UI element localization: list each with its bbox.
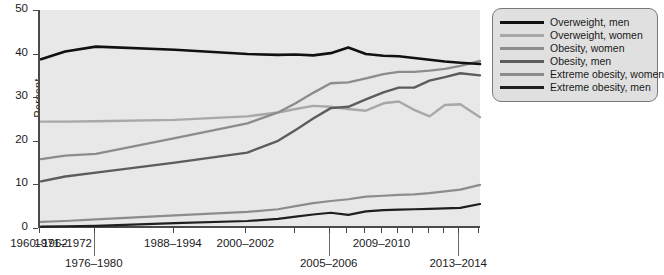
legend-line-swatch xyxy=(500,86,544,88)
x-label-connector xyxy=(458,233,459,256)
x-tick-mark xyxy=(412,228,413,233)
x-tick-mark xyxy=(173,228,174,233)
legend-line-swatch xyxy=(500,60,544,62)
y-tick-label: 50 xyxy=(0,2,28,14)
legend-item[interactable]: Extreme obesity, men xyxy=(500,81,651,94)
legend-item-label: Extreme obesity, women xyxy=(550,68,664,81)
chart-figure: Percent 01020304050 1960–19621971–197219… xyxy=(0,0,664,275)
y-tick-label: 30 xyxy=(0,89,28,101)
x-tick-mark xyxy=(364,228,365,233)
x-tick-mark xyxy=(346,228,347,233)
legend-item-label: Overweight, women xyxy=(550,29,643,42)
y-tick-mark xyxy=(33,228,38,229)
y-tick-label: 0 xyxy=(0,220,28,232)
series-line xyxy=(41,73,480,181)
x-tick-label: 2000–2002 xyxy=(217,237,275,249)
x-tick-mark xyxy=(443,228,444,233)
legend-item-label: Obesity, men xyxy=(550,55,611,68)
legend-item-label: Extreme obesity, men xyxy=(550,81,651,94)
legend-item-label: Overweight, men xyxy=(550,16,629,29)
series-line xyxy=(41,185,480,222)
x-tick-mark xyxy=(39,228,40,233)
legend-line-swatch xyxy=(500,21,544,24)
x-tick-mark xyxy=(397,228,398,233)
legend-item[interactable]: Obesity, women xyxy=(500,42,651,55)
legend-item-label: Obesity, women xyxy=(550,42,625,55)
x-tick-mark xyxy=(294,228,295,233)
y-tick-label: 40 xyxy=(0,46,28,58)
x-tick-mark xyxy=(478,228,479,233)
y-tick-label: 20 xyxy=(0,133,28,145)
x-tick-mark xyxy=(381,228,382,233)
x-tick-mark xyxy=(245,228,246,233)
x-tick-label: 1971–1972 xyxy=(34,237,92,249)
legend-item[interactable]: Extreme obesity, women xyxy=(500,68,651,81)
series-lines xyxy=(40,10,482,228)
x-label-connector xyxy=(329,233,330,256)
legend-line-swatch xyxy=(500,73,544,75)
legend-item[interactable]: Overweight, women xyxy=(500,29,651,42)
y-tick-label: 10 xyxy=(0,176,28,188)
legend-line-swatch xyxy=(500,47,544,49)
legend-item[interactable]: Overweight, men xyxy=(500,16,651,29)
x-tick-mark xyxy=(428,228,429,233)
x-tick-label: 2013–2014 xyxy=(429,257,487,269)
x-tick-label: 1988–1994 xyxy=(144,237,202,249)
legend-line-swatch xyxy=(500,34,544,36)
series-line xyxy=(41,47,480,64)
plot-area xyxy=(38,10,480,228)
x-label-connector xyxy=(94,233,95,256)
x-tick-label: 2005–2006 xyxy=(300,257,358,269)
legend-item[interactable]: Obesity, men xyxy=(500,55,651,68)
series-line xyxy=(41,204,480,227)
x-tick-label: 2009–2010 xyxy=(353,237,411,249)
x-tick-label: 1976–1980 xyxy=(65,257,123,269)
chart-legend: Overweight, men Overweight, women Obesit… xyxy=(492,8,658,102)
